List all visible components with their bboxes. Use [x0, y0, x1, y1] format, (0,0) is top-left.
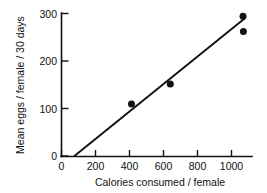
x-tick-label-0: 0 — [59, 160, 65, 172]
data-point — [128, 100, 135, 107]
x-tick-label-600: 600 — [155, 160, 173, 172]
data-point — [167, 80, 174, 87]
data-point — [240, 28, 247, 35]
x-tick-label-400: 400 — [121, 160, 139, 172]
y-tick-label-100: 100 — [39, 103, 57, 115]
x-tick-label-200: 200 — [87, 160, 105, 172]
y-axis-title: Mean eggs / female / 30 days — [14, 16, 26, 154]
y-tick-label-0: 0 — [51, 150, 57, 162]
x-axis-title: Calories consumed / female — [95, 176, 225, 188]
x-tick-label-1000: 1000 — [220, 160, 244, 172]
plot-canvas: 300 200 100 0 0 200 400 600 800 1000 — [0, 0, 267, 193]
x-tick-label-800: 800 — [189, 160, 207, 172]
y-tick-label-300: 300 — [39, 8, 57, 20]
y-tick-label-200: 200 — [39, 55, 57, 67]
data-point — [240, 13, 247, 20]
scatter-chart-figure: 300 200 100 0 0 200 400 600 800 1000 — [0, 0, 267, 193]
